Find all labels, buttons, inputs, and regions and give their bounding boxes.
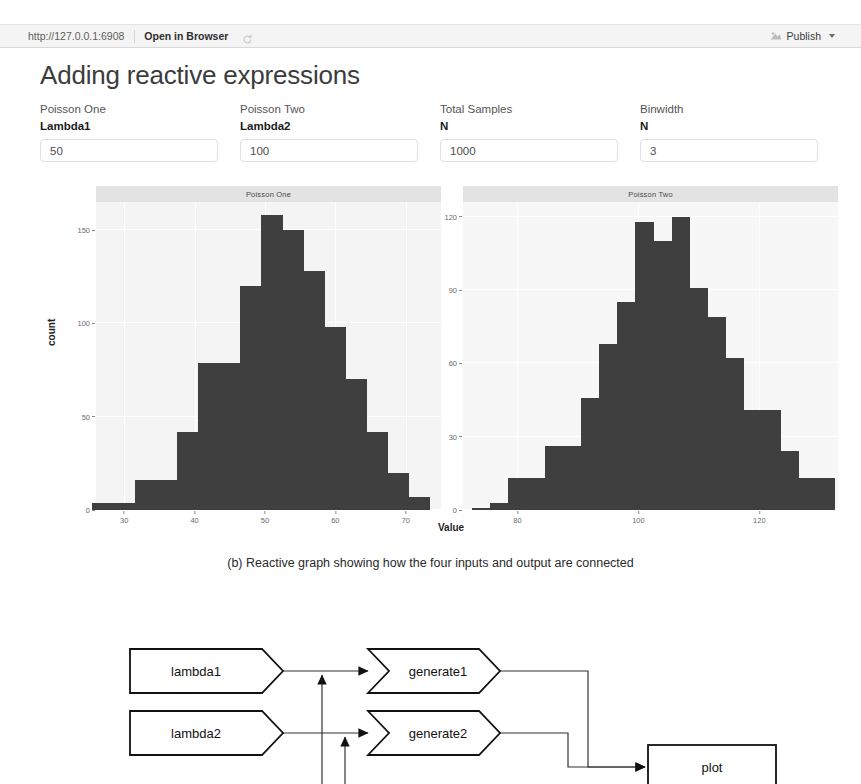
- viewer-url[interactable]: http://127.0.0.1:6908: [28, 30, 124, 42]
- page-top-artifact: [0, 0, 861, 18]
- edge-n-generate1: [281, 675, 322, 784]
- histogram-bar: [744, 410, 762, 510]
- x-axis-tick: 60: [331, 510, 339, 525]
- viewer-toolbar: http://127.0.0.1:6908 Open in Browser Pu…: [0, 24, 861, 48]
- histogram-bar: [708, 317, 726, 510]
- shiny-app-body: Adding reactive expressions Poisson One …: [0, 46, 861, 91]
- histogram-bar: [219, 363, 240, 510]
- x-axis-label: Value: [438, 522, 464, 533]
- figure-caption: (b) Reactive graph showing how the four …: [0, 556, 861, 570]
- diagram-node-lambda1: lambda1: [130, 649, 283, 693]
- toolbar-divider: [134, 30, 135, 43]
- x-axis-tick: 70: [402, 510, 410, 525]
- histogram-bar: [672, 217, 690, 510]
- edge-generate1-plot: [500, 671, 645, 767]
- facet-strip-label: Poisson Two: [463, 186, 838, 202]
- histogram-bar: [508, 478, 526, 510]
- histogram-bar: [690, 288, 708, 510]
- x-axis-tick: 100: [632, 510, 645, 525]
- input-caption: Binwidth: [640, 102, 840, 116]
- input-label: Lambda2: [240, 119, 440, 133]
- input-group-lambda1: Poisson One Lambda1: [40, 102, 240, 162]
- histogram-bar: [599, 344, 617, 510]
- y-axis-tick: 30: [449, 432, 463, 441]
- diagram-node-plot: plot: [648, 745, 776, 784]
- histogram-bar: [635, 222, 653, 510]
- input-group-lambda2: Poisson Two Lambda2: [240, 102, 440, 162]
- node-label: generate1: [409, 664, 468, 679]
- plot-panel: 0501001503040506070: [96, 202, 441, 510]
- bar-series: [96, 202, 441, 510]
- x-axis-tick: 120: [753, 510, 766, 525]
- histogram-bar: [198, 363, 219, 510]
- histogram-bar: [817, 478, 835, 510]
- publish-button[interactable]: Publish: [770, 30, 835, 42]
- histogram-plot: count Value Poisson One 0501001503040506…: [38, 186, 838, 546]
- lambda1-input[interactable]: [40, 139, 218, 162]
- input-caption: Total Samples: [440, 102, 640, 116]
- histogram-bar: [346, 379, 367, 510]
- edge-n-generate2: [281, 737, 345, 784]
- ghost-text: [230, 0, 233, 10]
- y-axis-tick: 60: [449, 359, 463, 368]
- bar-series: [463, 202, 838, 510]
- x-axis-tick: 50: [261, 510, 269, 525]
- facet-strip-label: Poisson One: [96, 186, 441, 202]
- node-label: plot: [702, 760, 723, 775]
- histogram-bar: [726, 358, 744, 510]
- node-label: lambda2: [171, 726, 221, 741]
- histogram-bar: [409, 497, 430, 510]
- x-axis-tick: 80: [513, 510, 521, 525]
- histogram-bar: [490, 503, 508, 510]
- y-axis-label: count: [46, 319, 57, 346]
- y-axis-tick: 0: [86, 506, 96, 515]
- chevron-down-icon[interactable]: [829, 34, 835, 38]
- y-axis-tick: 0: [453, 506, 463, 515]
- node-label: generate2: [409, 726, 468, 741]
- input-caption: Poisson Two: [240, 102, 440, 116]
- total-samples-input[interactable]: [440, 139, 618, 162]
- y-axis-tick: 50: [82, 412, 96, 421]
- diagram-node-generate1: generate1: [368, 649, 500, 693]
- publish-icon: [770, 31, 782, 42]
- input-label: Lambda1: [40, 119, 240, 133]
- histogram-bar: [563, 446, 581, 510]
- histogram-bar: [781, 451, 799, 510]
- histogram-bar: [114, 503, 135, 510]
- histogram-bar: [240, 286, 261, 510]
- input-caption: Poisson One: [40, 102, 240, 116]
- histogram-bar: [527, 478, 545, 510]
- plot-panel: 030609012080100120: [463, 202, 838, 510]
- diagram-node-lambda2: lambda2: [130, 711, 283, 755]
- y-axis-tick: 90: [449, 286, 463, 295]
- histogram-bar: [304, 271, 325, 510]
- histogram-bar: [177, 432, 198, 510]
- histogram-bar: [472, 508, 490, 510]
- input-row: Poisson One Lambda1 Poisson Two Lambda2 …: [40, 102, 840, 162]
- node-label: lambda1: [171, 664, 221, 679]
- y-axis-tick: 120: [444, 212, 463, 221]
- facet-panel-poisson-one: Poisson One 0501001503040506070: [96, 186, 441, 546]
- histogram-bar: [617, 302, 635, 510]
- input-label: N: [440, 119, 640, 133]
- histogram-bar: [156, 480, 177, 510]
- histogram-bar: [135, 480, 156, 510]
- histogram-bar: [545, 446, 563, 510]
- lambda2-input[interactable]: [240, 139, 418, 162]
- refresh-icon[interactable]: [242, 31, 253, 42]
- histogram-bar: [283, 230, 304, 510]
- edge-generate2-plot: [500, 733, 645, 767]
- publish-label: Publish: [787, 30, 821, 42]
- histogram-bar: [325, 327, 346, 510]
- histogram-bar: [799, 478, 817, 510]
- diagram-node-generate2: generate2: [368, 711, 500, 755]
- x-axis-tick: 30: [120, 510, 128, 525]
- histogram-bar: [654, 241, 672, 510]
- facet-panel-poisson-two: Poisson Two 030609012080100120: [463, 186, 838, 546]
- y-axis-tick: 150: [77, 226, 96, 235]
- input-label: N: [640, 119, 840, 133]
- open-in-browser-button[interactable]: Open in Browser: [144, 30, 228, 42]
- reactive-graph-diagram: lambda1 lambda2 N generate1 generate2: [0, 601, 861, 784]
- binwidth-input[interactable]: [640, 139, 818, 162]
- histogram-bar: [367, 432, 388, 510]
